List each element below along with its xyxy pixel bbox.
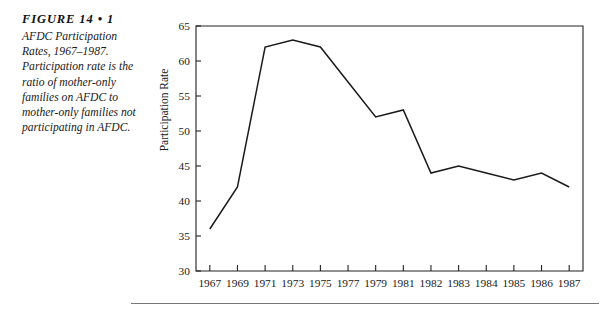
- y-tick-label: 30: [179, 265, 191, 277]
- x-tick-label: 1983: [447, 277, 470, 289]
- x-tick-label: 1971: [254, 277, 277, 289]
- x-axis-tick-labels: 1967196919711973197519771979198119821983…: [198, 277, 580, 289]
- line-chart-plot: 3035404550556065 19671969197119731975197…: [138, 8, 598, 300]
- figure-caption-text: AFDC Participation Rates, 1967–1987. Par…: [22, 29, 148, 135]
- data-series-line: [210, 40, 569, 229]
- figure-caption: FIGURE 14 • 1 AFDC Participation Rates, …: [22, 12, 148, 135]
- y-tick-label: 60: [179, 55, 191, 67]
- x-tick-label: 1987: [558, 277, 581, 289]
- chart-area: Participation Rate 3035404550556065 1967…: [138, 8, 598, 300]
- x-tick-label: 1979: [364, 277, 387, 289]
- x-tick-label: 1982: [420, 277, 443, 289]
- x-tick-label: 1981: [392, 277, 415, 289]
- y-tick-label: 45: [179, 160, 191, 172]
- y-tick-label: 40: [179, 195, 191, 207]
- bottom-horizontal-rule: [131, 303, 599, 304]
- x-tick-label: 1973: [281, 277, 304, 289]
- axis-tick-marks: [196, 26, 569, 271]
- x-tick-label: 1986: [530, 277, 553, 289]
- x-tick-label: 1985: [503, 277, 526, 289]
- plot-frame-box: [196, 26, 583, 271]
- y-tick-label: 55: [179, 90, 191, 102]
- x-tick-label: 1977: [337, 277, 360, 289]
- figure-container: FIGURE 14 • 1 AFDC Participation Rates, …: [0, 0, 606, 318]
- x-tick-label: 1984: [475, 277, 498, 289]
- x-tick-label: 1967: [198, 277, 221, 289]
- y-tick-label: 65: [179, 20, 191, 32]
- y-tick-label: 35: [179, 230, 191, 242]
- y-axis-tick-labels: 3035404550556065: [179, 20, 191, 277]
- figure-number-label: FIGURE 14 • 1: [22, 12, 148, 27]
- x-tick-label: 1969: [226, 277, 249, 289]
- x-tick-label: 1975: [309, 277, 332, 289]
- y-tick-label: 50: [179, 125, 191, 137]
